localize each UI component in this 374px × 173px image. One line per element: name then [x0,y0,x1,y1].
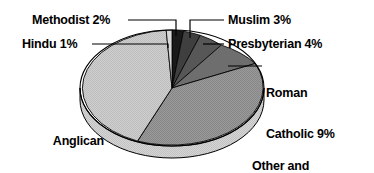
label-muslim: Muslim 3% [228,14,291,28]
label-hindu: Hindu 1% [22,38,77,52]
label-other-line1: Other and [252,160,352,173]
label-methodist: Methodist 2% [32,14,110,28]
pie-chart: Methodist 2% Hindu 1% Muslim 3% Presbyte… [0,0,374,173]
label-anglican: Anglican 45% [8,108,104,173]
label-roman-catholic-line1: Roman [266,87,335,101]
label-other-nonreligious: Other and nonreligious 36% [252,133,352,173]
label-presbyterian: Presbyterian 4% [228,38,322,52]
label-anglican-line1: Anglican [8,135,104,149]
